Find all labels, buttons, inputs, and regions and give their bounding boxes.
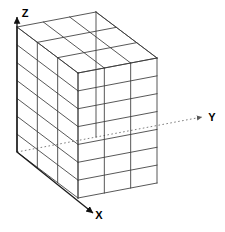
axis-label-z: Z <box>22 7 29 19</box>
mesh-line-top <box>58 43 137 58</box>
mesh-line-top <box>70 17 131 63</box>
mesh-line-top <box>17 12 96 27</box>
mesh-line-front <box>78 94 157 109</box>
axis-line-x <box>17 152 93 213</box>
axes-layer <box>17 117 202 152</box>
axis-label-y: Y <box>208 111 216 123</box>
axis-labels-layer: ZYX <box>22 7 217 221</box>
mesh-layer <box>17 12 157 198</box>
mesh-line-left <box>17 45 78 91</box>
axes-foreground-layer <box>17 17 93 213</box>
mesh-line-left <box>17 81 78 127</box>
mesh-line-left <box>17 63 78 109</box>
block-mesh-svg: ZYX <box>0 0 225 232</box>
mesh-line-top <box>43 22 104 68</box>
axis-line-y <box>17 117 202 152</box>
mesh-line-front <box>78 58 157 73</box>
mesh-line-front <box>78 165 157 180</box>
mesh-line-front <box>78 183 157 198</box>
mesh-line-left <box>17 98 78 144</box>
mesh-line-top <box>37 27 116 42</box>
axis-label-x: X <box>95 209 103 221</box>
figure-canvas: ZYX <box>0 0 225 232</box>
mesh-line-front <box>78 129 157 144</box>
mesh-line-front <box>78 147 157 162</box>
mesh-line-left <box>17 134 78 180</box>
mesh-line-front <box>78 112 157 127</box>
mesh-line-left <box>17 27 78 73</box>
mesh-edge-top-right <box>96 12 157 58</box>
mesh-line-left <box>17 116 78 162</box>
mesh-line-front <box>78 76 157 91</box>
